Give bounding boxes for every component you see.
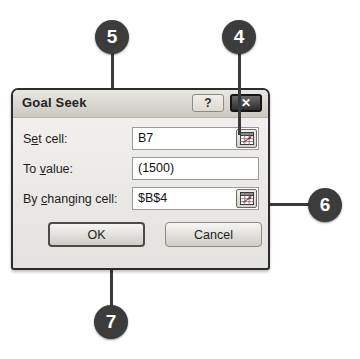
dialog-button-row: OK Cancel xyxy=(13,222,268,252)
by-changing-cell-label-pre: By xyxy=(23,192,41,206)
goal-seek-dialog: Goal Seek ? ✕ Set cell: B7 xyxy=(11,88,270,270)
to-value-label-pre: To xyxy=(23,162,40,176)
question-mark-icon: ? xyxy=(204,96,211,110)
callout-5-number: 5 xyxy=(107,26,118,48)
ok-button[interactable]: OK xyxy=(48,222,145,247)
range-selector-icon xyxy=(240,192,254,205)
form-row-set-cell: Set cell: B7 xyxy=(13,127,268,153)
close-icon: ✕ xyxy=(241,96,251,110)
callout-7: 7 xyxy=(94,305,128,339)
to-value-label-post: alue: xyxy=(46,162,73,176)
by-changing-cell-label-post: hanging cell: xyxy=(47,192,117,206)
form-row-by-changing-cell: By changing cell: $B$4 xyxy=(13,187,268,213)
to-value-field[interactable]: (1500) xyxy=(132,157,259,180)
dialog-title: Goal Seek xyxy=(22,95,87,110)
callout-6: 6 xyxy=(308,188,342,222)
form-row-to-value: To value: (1500) xyxy=(13,157,268,183)
by-changing-cell-label: By changing cell: xyxy=(23,192,118,206)
by-changing-cell-value: $B$4 xyxy=(138,191,167,205)
to-value-value: (1500) xyxy=(138,161,174,175)
callout-4: 4 xyxy=(222,20,256,54)
set-cell-label-post: t cell: xyxy=(38,132,67,146)
help-button[interactable]: ? xyxy=(192,94,224,112)
to-value-label: To value: xyxy=(23,162,73,176)
callout-6-number: 6 xyxy=(320,194,331,216)
by-changing-cell-field[interactable]: $B$4 xyxy=(132,187,259,210)
range-selector-icon xyxy=(240,132,254,145)
cancel-button[interactable]: Cancel xyxy=(165,222,262,247)
leader-line-4-vertical xyxy=(238,52,241,135)
callout-5: 5 xyxy=(95,20,129,54)
callout-7-number: 7 xyxy=(106,311,117,333)
annotated-screenshot: Goal Seek ? ✕ Set cell: B7 xyxy=(0,0,360,359)
dialog-body: Set cell: B7 xyxy=(13,118,268,271)
set-cell-value: B7 xyxy=(138,131,153,145)
callout-4-number: 4 xyxy=(234,26,245,48)
set-cell-label: Set cell: xyxy=(23,132,67,146)
by-changing-cell-collapse-button[interactable] xyxy=(236,189,257,208)
close-button[interactable]: ✕ xyxy=(230,94,262,112)
dialog-titlebar[interactable]: Goal Seek ? ✕ xyxy=(13,90,268,118)
